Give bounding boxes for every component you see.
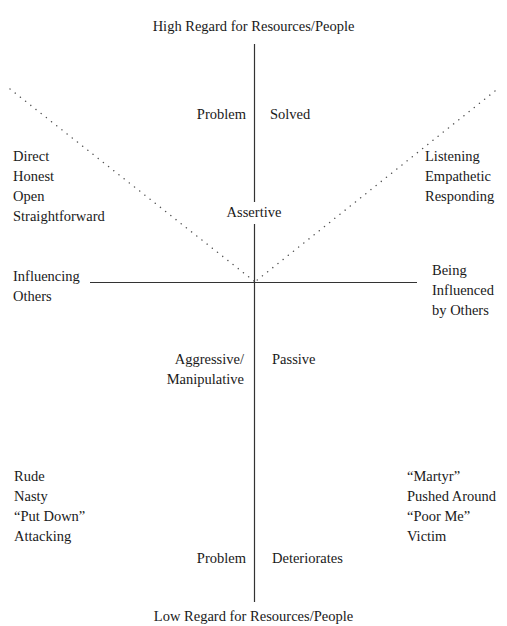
- aggressive-label-line: Aggressive/: [140, 349, 244, 369]
- deteriorates-label: Deteriorates: [272, 548, 343, 568]
- trait-pushed-around: Pushed Around: [407, 486, 496, 506]
- trait-victim: Victim: [407, 526, 496, 546]
- trait-poor-me: “Poor Me”: [407, 506, 496, 526]
- aggressive-traits: Rude Nasty “Put Down” Attacking: [14, 466, 85, 546]
- problem-label-top: Problem: [186, 104, 246, 124]
- left-axis-label-line: Influencing: [13, 266, 80, 286]
- right-axis-label-line: Being: [432, 260, 494, 280]
- assertive-influenced-traits: Listening Empathetic Responding: [425, 146, 494, 206]
- trait-martyr: “Martyr”: [407, 466, 496, 486]
- assertive-influencing-traits: Direct Honest Open Straightforward: [13, 146, 105, 226]
- trait-empathetic: Empathetic: [425, 166, 494, 186]
- aggressive-label-line: Manipulative: [140, 369, 244, 389]
- aggressive-manipulative-label: Aggressive/ Manipulative: [140, 349, 244, 389]
- solved-label: Solved: [270, 104, 310, 124]
- trait-rude: Rude: [14, 466, 85, 486]
- trait-listening: Listening: [425, 146, 494, 166]
- trait-responding: Responding: [425, 186, 494, 206]
- trait-open: Open: [13, 186, 105, 206]
- assertive-label: Assertive: [204, 202, 304, 222]
- bottom-axis-title: Low Regard for Resources/People: [0, 606, 507, 626]
- top-axis-title: High Regard for Resources/People: [0, 16, 507, 36]
- left-axis-label: Influencing Others: [13, 266, 80, 306]
- problem-label-bottom: Problem: [186, 548, 246, 568]
- right-axis-label-line: Influenced: [432, 280, 494, 300]
- right-axis-label-line: by Others: [432, 300, 494, 320]
- trait-attacking: Attacking: [14, 526, 85, 546]
- passive-traits: “Martyr” Pushed Around “Poor Me” Victim: [407, 466, 496, 546]
- left-axis-label-line: Others: [13, 286, 80, 306]
- trait-direct: Direct: [13, 146, 105, 166]
- trait-nasty: Nasty: [14, 486, 85, 506]
- trait-straightforward: Straightforward: [13, 206, 105, 226]
- passive-label: Passive: [272, 349, 316, 369]
- trait-put-down: “Put Down”: [14, 506, 85, 526]
- trait-honest: Honest: [13, 166, 105, 186]
- right-axis-label: Being Influenced by Others: [432, 260, 494, 320]
